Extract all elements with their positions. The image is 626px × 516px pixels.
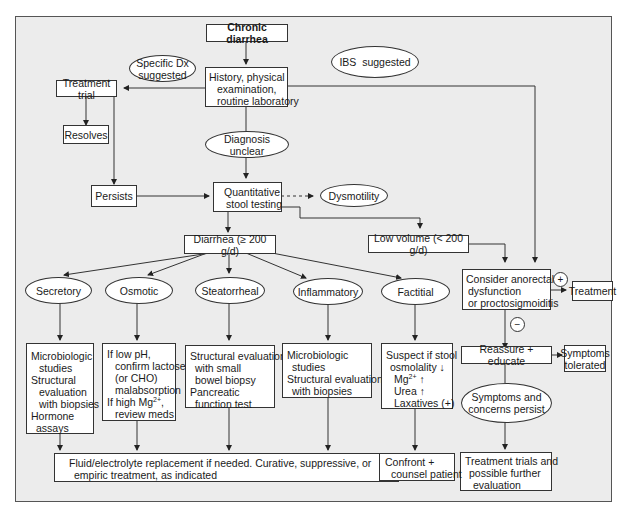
resolves-label: Resolves xyxy=(64,129,107,141)
resolves-box: Resolves xyxy=(63,125,109,144)
low-volume-label: Low volume (< 200 g/d) xyxy=(369,232,468,256)
factitial-eval-line: Urea ↑ xyxy=(386,385,448,397)
superscript: 2+ xyxy=(409,373,417,380)
positive-result-icon: + xyxy=(553,272,568,287)
confront-line: Confront + xyxy=(385,456,449,468)
steatorrheal-oval: Steatorrheal xyxy=(195,277,265,304)
secretory-oval: Secretory xyxy=(25,277,92,304)
diarrhea-high-volume-box: Diarrhea (≥ 200 g/d) xyxy=(184,235,276,254)
anorectal-line: dysfunction xyxy=(466,285,547,297)
specific-dx-suggested-oval: Specific Dxsuggested xyxy=(129,55,196,82)
diarrhea-high-volume-label: Diarrhea (≥ 200 g/d) xyxy=(185,233,275,257)
quantitative-line: Quantitative xyxy=(218,186,277,198)
osmotic-eval-line: review meds xyxy=(107,408,171,420)
inflammatory-eval-line: Microbiologic xyxy=(287,349,367,361)
negative-result-icon: − xyxy=(510,317,525,332)
secretory-label: Secretory xyxy=(36,285,81,297)
secretory-eval-line: assays xyxy=(31,422,89,434)
confront-line: counsel patient xyxy=(385,468,449,480)
plus-label: + xyxy=(558,274,564,285)
treatment-label: Treatment xyxy=(569,285,616,297)
secretory-eval-line: Microbiologic xyxy=(31,350,89,362)
diagnosis-unclear-oval: Diagnosis unclear xyxy=(205,131,289,158)
osmotic-oval: Osmotic xyxy=(105,277,173,304)
factitial-eval-line: Laxatives (+) xyxy=(386,397,448,409)
ibs-suggested-oval: IBS suggested xyxy=(331,46,419,78)
treatment-trials-box: Treatment trials and possible further ev… xyxy=(460,452,552,491)
secretory-eval-line: Structural xyxy=(31,374,89,386)
factitial-evaluation-box: Suspect if stool osmolality ↓ Mg2+ ↑ Ure… xyxy=(381,343,453,409)
up-arrow-icon: ↑ xyxy=(417,373,425,385)
treatment-trials-line: Treatment trials and xyxy=(465,455,547,467)
low-volume-box: Low volume (< 200 g/d) xyxy=(368,235,469,253)
fluid-electrolyte-box: Fluid/electrolyte replacement if needed.… xyxy=(54,453,399,482)
reassure-educate-box: Reassure + educate xyxy=(461,346,552,364)
secretory-eval-line: studies xyxy=(31,362,89,374)
quantitative-line: stool testing xyxy=(218,198,277,210)
steatorrheal-eval-line: Pancreatic xyxy=(190,386,270,398)
symptoms-tolerated-line: Symptoms xyxy=(560,347,610,359)
fluid-line: Fluid/electrolyte replacement if needed.… xyxy=(69,457,384,469)
factitial-oval: Factitial xyxy=(381,278,450,305)
treatment-trial-box: Treatment trial xyxy=(56,80,117,97)
mg-text: Mg xyxy=(394,373,409,385)
specific-dx-line: suggested xyxy=(136,69,189,81)
reassure-educate-label: Reassure + educate xyxy=(462,343,551,367)
steatorrheal-evaluation-box: Structural evaluation with small bowel b… xyxy=(185,345,275,408)
history-line: examination, xyxy=(209,83,284,95)
anorectal-dysfunction-box: Consider anorectal dysfunction or procto… xyxy=(462,269,551,310)
symptoms-tolerated-box: Symptomstolerated xyxy=(564,345,606,372)
symptoms-persist-line: concerns persist xyxy=(468,403,544,415)
dysmotility-label: Dysmotility xyxy=(329,190,380,202)
osmotic-eval-line: If high Mg2+, xyxy=(107,396,171,408)
secretory-evaluation-box: Microbiologic studies Structural evaluat… xyxy=(26,343,94,434)
symptoms-persist-line: Symptoms and xyxy=(468,391,544,403)
chronic-diarrhea-box: Chronic diarrhea xyxy=(206,24,288,42)
fluid-line: empiric treatment, as indicated xyxy=(69,469,384,481)
osmotic-label: Osmotic xyxy=(120,285,159,297)
secretory-eval-line: Hormone xyxy=(31,410,89,422)
quantitative-stool-testing-box: Quantitative stool testing xyxy=(213,182,282,212)
confront-counsel-box: Confront + counsel patient xyxy=(379,453,455,481)
osmotic-eval-line: confirm lactose xyxy=(107,360,171,372)
comma: , xyxy=(161,396,164,408)
history-line: History, physical xyxy=(209,71,284,83)
chronic-diarrhea-label: Chronic diarrhea xyxy=(207,21,287,45)
ibs-suggested-label: IBS suggested xyxy=(339,56,410,68)
osmotic-eval-line: (or CHO) xyxy=(107,372,171,384)
inflammatory-eval-line: Structural evaluation xyxy=(287,373,367,385)
steatorrheal-eval-line: Structural evaluation xyxy=(190,350,270,362)
treatment-box: Treatment xyxy=(572,281,613,301)
inflammatory-eval-line: with biopsies xyxy=(287,385,367,397)
history-exam-box: History, physical examination, routine l… xyxy=(205,67,288,107)
secretory-eval-line: with biopsies xyxy=(31,398,89,410)
history-line: routine laboratory xyxy=(209,95,284,107)
factitial-eval-line: Mg2+ ↑ xyxy=(386,373,448,385)
anorectal-line: or proctosigmoiditis xyxy=(466,297,547,309)
steatorrheal-eval-line: function test xyxy=(190,398,270,410)
osmotic-mg-text: If high Mg xyxy=(107,396,153,408)
factitial-eval-line: osmolality ↓ xyxy=(386,361,448,373)
inflammatory-oval: Inflammatory xyxy=(293,278,363,305)
osmotic-eval-line: malabsorption xyxy=(107,384,171,396)
inflammatory-evaluation-box: Microbiologic studies Structural evaluat… xyxy=(282,343,372,398)
inflammatory-eval-line: studies xyxy=(287,361,367,373)
steatorrheal-eval-line: with small xyxy=(190,362,270,374)
specific-dx-line: Specific Dx xyxy=(136,57,189,69)
symptoms-persist-oval: Symptoms andconcerns persist xyxy=(461,383,552,423)
treatment-trials-line: evaluation xyxy=(465,479,547,491)
osmotic-eval-line: If low pH, xyxy=(107,348,171,360)
diagnosis-unclear-label: Diagnosis unclear xyxy=(206,133,288,157)
treatment-trial-label: Treatment trial xyxy=(57,77,116,101)
dysmotility-oval: Dysmotility xyxy=(320,184,388,207)
persists-box: Persists xyxy=(91,185,137,207)
treatment-trials-line: possible further xyxy=(465,467,547,479)
osmotic-evaluation-box: If low pH, confirm lactose (or CHO) mala… xyxy=(102,343,176,421)
persists-label: Persists xyxy=(95,190,132,202)
secretory-eval-line: evaluation xyxy=(31,386,89,398)
factitial-label: Factitial xyxy=(397,286,433,298)
steatorrheal-eval-line: bowel biopsy xyxy=(190,374,270,386)
anorectal-line: Consider anorectal xyxy=(466,273,547,285)
inflammatory-label: Inflammatory xyxy=(298,286,359,298)
steatorrheal-label: Steatorrheal xyxy=(201,285,258,297)
